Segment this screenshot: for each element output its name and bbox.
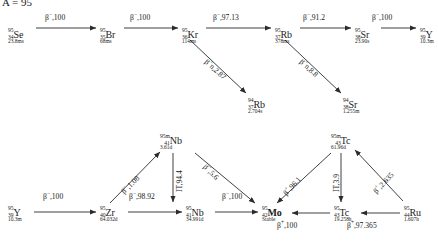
- nuclide-y95t: 9539Y10.3m: [420, 26, 433, 42]
- transition-label-t3: β−,97.13: [213, 14, 239, 22]
- transition-label-t1: β−,100: [45, 14, 65, 22]
- nuclide-kr95: 9536Kr114ms: [182, 26, 198, 42]
- half-life: 378ms: [275, 39, 289, 44]
- half-life: 10.3m: [420, 39, 434, 44]
- half-life: 23.8ms: [8, 39, 24, 44]
- nuclide-se95: 9534Se23.8ms: [8, 26, 23, 42]
- transition-label-t15: IT,3.9: [333, 174, 341, 192]
- diagram-title: A = 95: [2, 0, 32, 8]
- nuclide-nb95m: 95m41Nb3.61d: [160, 132, 182, 148]
- transition-label-t5: β−,100: [372, 14, 392, 22]
- transition-label-t16: β+,100: [277, 222, 297, 230]
- transition-label-t8: β−,100: [43, 193, 63, 201]
- nuclide-tc95: 9543Tc19.258h: [334, 204, 349, 220]
- transition-label-t9: β−,98.92: [129, 193, 155, 201]
- half-life: 10.3m: [8, 217, 22, 222]
- nuclide-rb94: 9437Rb2.704s: [248, 96, 265, 112]
- nuclide-sr94: 9438Sr1.255m: [343, 96, 357, 112]
- transition-label-t11: IT,94.4: [176, 170, 184, 192]
- transition-label-t4: β−,91.2: [303, 14, 325, 22]
- nuclide-tc95m: 95m43Tc61.96d: [331, 132, 351, 148]
- half-life: 1.607h: [404, 217, 419, 222]
- transition-label-t12: β−,100: [222, 193, 242, 201]
- nuclide-ru95: 9544Ru1.607h: [404, 204, 421, 220]
- half-life: 2.704s: [248, 109, 262, 114]
- arrow-layer: [0, 0, 438, 244]
- half-life: 34.991d: [186, 217, 204, 222]
- nuclide-zr95: 9540Zr64.032d: [100, 204, 115, 220]
- half-life: 61.96d: [331, 145, 346, 150]
- nuclide-mo95: 9542MoStable: [262, 204, 282, 220]
- transition-label-t2: β−,100: [130, 14, 150, 22]
- half-life: 23.90s: [355, 39, 369, 44]
- half-life: 3.61d: [160, 145, 172, 150]
- nuclide-br95: 9535Br68ms: [100, 26, 115, 42]
- half-life: 114ms: [182, 39, 196, 44]
- half-life: 68ms: [100, 39, 112, 44]
- nuclide-nb95: 9541Nb34.991d: [186, 204, 204, 220]
- decay-chain-diagram: A = 95 9534Se23.8ms9535Br68ms9536Kr114ms…: [0, 0, 438, 244]
- half-life: Stable: [262, 217, 275, 222]
- nuclide-sr95: 9538Sr23.90s: [355, 26, 369, 42]
- nuclide-rb95: 9537Rb378ms: [275, 26, 292, 42]
- half-life: 1.255m: [343, 109, 359, 114]
- transition-label-t17: β+,97.365: [347, 222, 377, 230]
- nuclide-y95b: 9539Y10.3m: [8, 204, 21, 220]
- half-life: 64.032d: [100, 217, 118, 222]
